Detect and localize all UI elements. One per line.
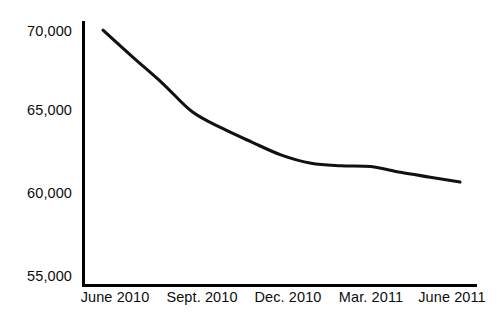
x-tick-label-dec-2010: Dec. 2010: [248, 290, 328, 305]
x-tick-label-june-2011: June 2011: [412, 290, 492, 305]
data-series-line: [103, 30, 460, 182]
y-tick-label-65000: 65,000: [2, 103, 72, 118]
chart-plot-area: [0, 0, 497, 318]
x-tick-label-mar-2011: Mar. 2011: [332, 290, 410, 305]
y-tick-label-55000: 55,000: [2, 269, 72, 284]
x-tick-label-june-2010: June 2010: [75, 290, 155, 305]
line-chart: 70,000 65,000 60,000 55,000 June 2010 Se…: [0, 0, 497, 318]
y-tick-label-70000: 70,000: [2, 24, 72, 39]
y-tick-label-60000: 60,000: [2, 186, 72, 201]
x-tick-label-sept-2010: Sept. 2010: [161, 290, 243, 305]
